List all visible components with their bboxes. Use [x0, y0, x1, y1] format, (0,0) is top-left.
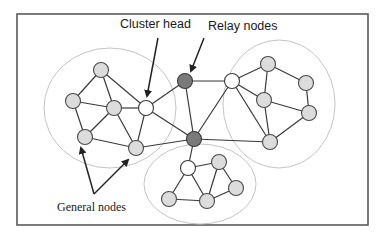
edge-CH2-J	[232, 81, 270, 142]
general-node-icon	[107, 101, 122, 116]
cluster-head-node-icon	[139, 101, 154, 116]
relay-nodes-label: Relay nodes	[208, 19, 278, 33]
diagram-frame	[17, 14, 368, 225]
cluster-head-label: Cluster head	[120, 17, 191, 31]
general-nodes-label: General nodes	[57, 200, 126, 214]
edge-R1-R2	[185, 81, 194, 139]
general-nodes-arrow-icon	[94, 160, 128, 194]
general-node-icon	[66, 94, 81, 109]
relay-node-icon	[178, 74, 193, 89]
general-node-icon	[200, 194, 215, 209]
general-node-icon	[263, 135, 278, 150]
relay-node-icon	[187, 132, 202, 147]
general-node-icon	[261, 57, 276, 72]
general-nodes-arrow-icon	[81, 148, 94, 194]
general-node-icon	[212, 155, 227, 170]
network-cluster-diagram: Cluster head Relay nodes General nodes	[0, 0, 385, 237]
general-node-icon	[94, 63, 109, 78]
general-node-icon	[229, 181, 244, 196]
general-node-icon	[129, 141, 144, 156]
general-node-icon	[162, 192, 177, 207]
cluster-head-node-icon	[181, 161, 196, 176]
edge-E-R2	[136, 139, 194, 148]
general-node-icon	[78, 130, 93, 145]
general-node-icon	[299, 76, 314, 91]
cluster-head-node-icon	[225, 74, 240, 89]
cluster-head-arrow-icon	[147, 38, 158, 96]
edge-R2-CH2	[194, 81, 232, 139]
relay-nodes-arrow-icon	[191, 38, 204, 71]
general-node-icon	[302, 106, 317, 121]
general-node-icon	[257, 93, 272, 108]
